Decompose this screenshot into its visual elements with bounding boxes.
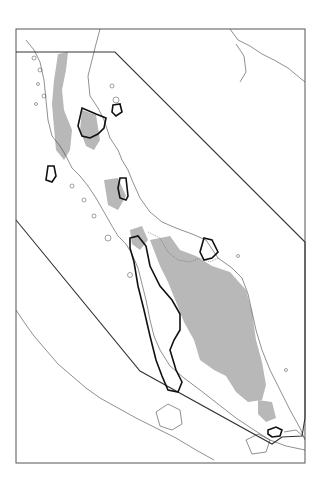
zone-5 [200,238,218,260]
map-canvas [0,0,323,491]
zone-3 [46,166,56,182]
zone-7 [268,427,282,437]
highland-areas [52,52,276,422]
zone-2 [112,104,122,116]
